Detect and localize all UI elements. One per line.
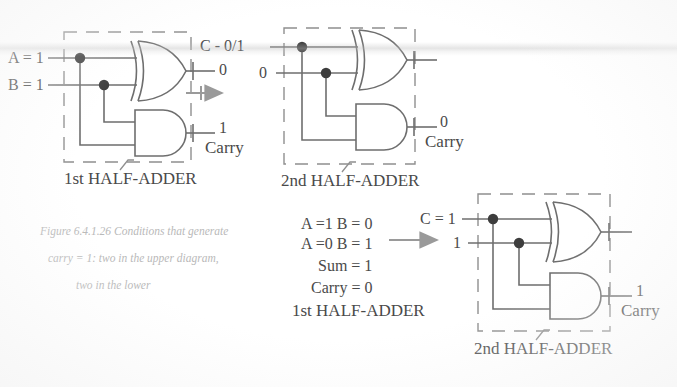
input-label-one-lower: 1 <box>453 235 461 251</box>
figure-canvas: A = 1 B = 1 0 1 Carry 1st HALF-ADDER C -… <box>0 0 677 387</box>
xor-gate <box>131 41 186 101</box>
junction-dot-a <box>75 53 85 63</box>
and-gate <box>356 104 407 150</box>
conditions-line-3-sum: Sum = 1 <box>318 258 372 274</box>
and-gate <box>550 273 601 319</box>
figure-caption-line-3: two in the lower <box>76 280 150 292</box>
second-half-adder-box-label-upper: 2nd HALF-ADDER <box>281 172 419 189</box>
xor-output-label-first: 0 <box>219 62 227 78</box>
input-label-c-upper: C - 0/1 <box>200 38 244 54</box>
wire-c-branch-to-and <box>493 219 550 309</box>
wire-c-branch-to-and <box>302 47 356 140</box>
figure-caption-line-2: carry = 1: two in the upper diagram, <box>48 253 219 265</box>
input-label-b: B = 1 <box>8 77 44 93</box>
junction-dot-b <box>99 80 109 90</box>
input-label-c-lower: C = 1 <box>420 211 456 227</box>
junction-dot-c <box>488 214 498 224</box>
input-label-zero-upper: 0 <box>259 65 267 81</box>
diagram-first-half-adder <box>48 32 215 170</box>
xor-gate <box>352 30 407 90</box>
junction-dot-one <box>514 238 524 248</box>
xor-gate <box>546 202 601 262</box>
and-output-name-second-upper: Carry <box>425 133 464 150</box>
first-half-adder-box-label: 1st HALF-ADDER <box>64 170 197 187</box>
diagram-second-half-adder-upper <box>270 28 437 172</box>
conditions-line-2: A =0 B = 1 <box>301 236 372 252</box>
conditions-source-label: 1st HALF-ADDER <box>292 302 425 319</box>
second-half-adder-box-label-lower: 2nd HALF-ADDER <box>474 340 612 357</box>
conditions-line-4-carry: Carry = 0 <box>311 280 372 296</box>
and-output-name-first: Carry <box>205 139 244 156</box>
junction-dot-zero <box>321 68 331 78</box>
conditions-line-1: A =1 B = 0 <box>301 216 372 232</box>
junction-dot-c <box>297 42 307 52</box>
and-output-value-second-lower: 1 <box>636 283 644 299</box>
wire-a-branch-to-and <box>80 58 135 145</box>
and-output-name-second-lower: Carry <box>621 302 660 319</box>
input-label-a: A = 1 <box>8 50 44 66</box>
dashed-boundary-box <box>64 32 191 162</box>
dashed-boundary-box <box>478 194 610 331</box>
circuit-vector-layer <box>0 0 677 387</box>
and-output-value-second-upper: 0 <box>440 114 448 130</box>
and-output-value-first: 1 <box>219 120 227 136</box>
and-gate <box>135 110 186 156</box>
diagram-second-half-adder-lower <box>462 194 632 340</box>
figure-caption-line-1: Figure 6.4.1.26 Conditions that generate <box>40 226 228 238</box>
wire-zero-branch-to-and <box>326 73 356 116</box>
wire-b-branch-to-and <box>104 85 135 122</box>
wire-one-branch-to-and <box>519 243 550 285</box>
